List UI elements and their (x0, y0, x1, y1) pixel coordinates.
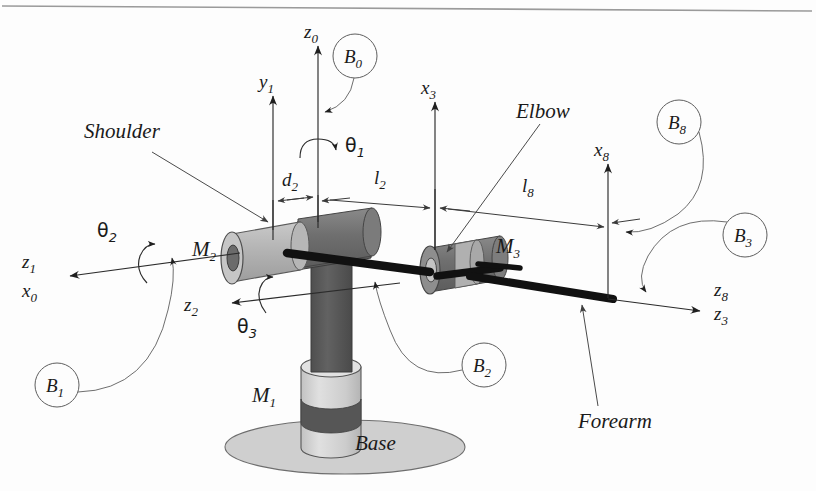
top-rule (2, 6, 812, 11)
part-label-base: Base (355, 431, 396, 455)
robot-arm-diagram: z0 y1 x3 x8 z1 x0 z2 z8 z3 θ1 θ2 θ3 d2 l… (0, 0, 816, 491)
body-frame-label-b3: B3 (734, 225, 753, 250)
dim-arrow-l2-right (330, 200, 430, 208)
axis-label-z0: z0 (303, 21, 318, 46)
dim-arrow-l8-end (612, 219, 640, 223)
body-frame-label-b0: B0 (344, 46, 363, 71)
axis-label-x8: x8 (593, 139, 609, 164)
body-frame-label-b8: B8 (668, 112, 687, 137)
axis-label-x3: x3 (420, 77, 436, 102)
body-frame-label-b2: B2 (473, 355, 492, 380)
dim-arrow-d2-right (287, 197, 313, 200)
body-frame-leader-b2 (375, 282, 462, 373)
angle-label-theta2: θ2 (97, 219, 117, 245)
leader-line-forearm (582, 305, 598, 406)
motor-label-m1: M1 (251, 383, 276, 410)
dim-label-l2: l2 (374, 167, 386, 192)
axis-label-z3: z3 (713, 303, 728, 328)
dim-label-d2: d2 (282, 169, 299, 194)
part-label-shoulder: Shoulder (84, 119, 161, 143)
body-frame-leader-b0 (325, 78, 354, 112)
axis-label-z8: z8 (713, 279, 728, 304)
rotation-arc-theta3 (259, 277, 273, 313)
axis-z8-z3-arrow (608, 299, 700, 311)
body-frame-leader-b1 (78, 258, 173, 392)
part-label-forearm: Forearm (577, 409, 652, 433)
dim-label-l8: l8 (522, 175, 534, 200)
angle-label-theta3: θ3 (237, 315, 257, 341)
motor-label-m2: M2 (191, 237, 217, 264)
rotation-arc-theta2 (139, 244, 155, 283)
motor-m2 (221, 208, 381, 284)
axis-label-z1: z1 (21, 251, 36, 276)
angle-label-theta1: θ1 (345, 134, 365, 160)
part-label-elbow: Elbow (515, 99, 570, 123)
body-frame-leader-b8 (626, 132, 703, 232)
body-frame-label-b1: B1 (46, 375, 64, 400)
axis-label-x0: x0 (21, 280, 37, 305)
leader-line-shoulder (152, 152, 268, 222)
figure-root: z0 y1 x3 x8 z1 x0 z2 z8 z3 θ1 θ2 θ3 d2 l… (0, 0, 816, 491)
axis-label-y1: y1 (257, 71, 274, 96)
axis-label-z2: z2 (183, 294, 198, 319)
motor-label-m3: M3 (495, 234, 521, 261)
